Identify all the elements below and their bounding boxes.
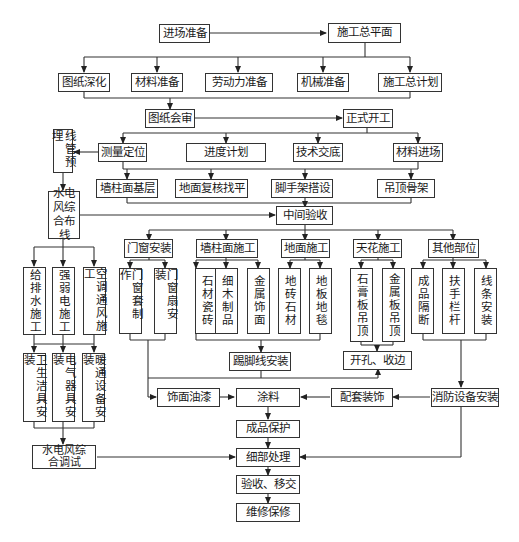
node-electrical-construction: 强弱电施工 bbox=[52, 267, 75, 335]
node-master-schedule: 施工总计划 bbox=[378, 73, 442, 92]
node-formal-commencement: 正式开工 bbox=[343, 109, 393, 128]
node-wood-floor-carpet: 地板地毯 bbox=[309, 268, 332, 334]
node-supporting-decoration: 配套装饰 bbox=[331, 388, 393, 407]
node-electrical-fixture-install: 电气器具安装 bbox=[52, 353, 75, 422]
node-door-window-install: 门窗安装 bbox=[124, 239, 173, 258]
node-machinery-preparation: 机械准备 bbox=[297, 73, 349, 92]
node-molding-install: 线条安装 bbox=[474, 268, 497, 334]
node-door-frame-fabrication: 门窗套制作 bbox=[119, 268, 142, 334]
node-metal-finish: 金属饰面 bbox=[247, 268, 270, 334]
node-finish-painting: 饰面油漆 bbox=[157, 388, 220, 407]
node-sanitary-ware-install: 卫生洁具安装 bbox=[23, 353, 46, 422]
node-technical-briefing: 技术交底 bbox=[293, 143, 343, 162]
node-fine-woodwork: 细木制品 bbox=[215, 268, 238, 334]
node-opening-edging: 开孔、收边 bbox=[343, 351, 412, 370]
node-conduit-embedding: 线管预埋 bbox=[53, 129, 73, 173]
node-wall-column-construction: 墙柱面施工 bbox=[196, 239, 258, 258]
node-site-preparation: 进场准备 bbox=[159, 24, 210, 43]
node-floor-tile-stone: 地砖石材 bbox=[278, 268, 301, 334]
node-skirting-install: 踢脚线安装 bbox=[229, 352, 291, 371]
node-metal-panel-ceiling: 金属板吊顶 bbox=[382, 268, 405, 342]
node-general-site-plan: 施工总平面 bbox=[328, 23, 401, 43]
node-ceiling-construction: 天花施工 bbox=[353, 239, 402, 258]
node-gypsum-ceiling: 石膏板吊顶 bbox=[350, 268, 373, 342]
node-material-preparation: 材料准备 bbox=[131, 73, 183, 92]
node-detail-treatment: 细部处理 bbox=[236, 448, 300, 467]
node-other-parts: 其他部位 bbox=[428, 239, 479, 258]
node-acceptance-handover: 验收、移交 bbox=[236, 475, 300, 494]
node-intermediate-inspection: 中间验收 bbox=[276, 206, 333, 225]
node-material-entry: 材料进场 bbox=[393, 143, 443, 162]
node-ceiling-frame: 吊顶骨架 bbox=[377, 179, 435, 198]
node-plumbing-construction: 给排水施工 bbox=[23, 267, 46, 335]
node-mep-integrated-commissioning: 水电风综合调试 bbox=[32, 445, 96, 469]
node-floor-construction: 地面施工 bbox=[281, 239, 330, 258]
node-mep-integrated-wiring: 水电风综合布线 bbox=[48, 191, 80, 239]
node-survey-positioning: 测量定位 bbox=[98, 143, 147, 162]
node-handrail: 扶手栏杆 bbox=[442, 268, 465, 334]
node-scaffolding: 脚手架搭设 bbox=[271, 179, 333, 198]
node-progress-plan: 进度计划 bbox=[186, 143, 266, 162]
node-drawing-deepening: 图纸深化 bbox=[58, 73, 110, 92]
node-drawing-review: 图纸会审 bbox=[145, 109, 195, 128]
node-door-leaf-install: 门窗扇安装 bbox=[154, 268, 177, 334]
node-wall-column-base: 墙柱面基层 bbox=[96, 179, 158, 198]
node-coating: 涂料 bbox=[236, 388, 300, 407]
node-prefab-partition: 成品隔断 bbox=[411, 268, 434, 334]
node-hvac-equipment-install: 暖通设备安装 bbox=[82, 353, 105, 422]
flowchart-canvas: 进场准备 施工总平面 图纸深化 材料准备 劳动力准备 机械准备 施工总计划 图纸… bbox=[0, 0, 519, 542]
node-labor-preparation: 劳动力准备 bbox=[205, 73, 273, 92]
node-finished-product-protection: 成品保护 bbox=[236, 420, 300, 438]
node-maintenance-warranty: 维修保修 bbox=[236, 503, 300, 522]
node-floor-leveling: 地面复核找平 bbox=[175, 179, 248, 198]
node-fire-equipment-install: 消防设备安装 bbox=[431, 388, 499, 407]
node-hvac-construction: 空调通风施工 bbox=[83, 267, 106, 335]
